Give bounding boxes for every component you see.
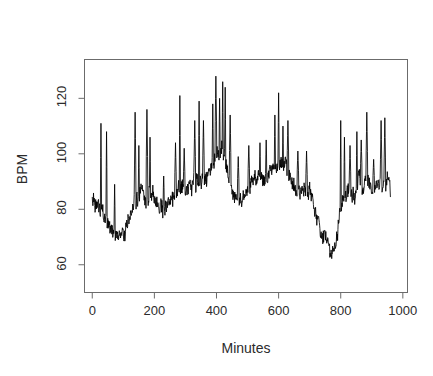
- x-tick-label: 600: [249, 303, 309, 318]
- x-tick-label: 200: [124, 303, 184, 318]
- x-axis-title: Minutes: [84, 340, 408, 356]
- y-tick-label: 120: [53, 77, 68, 117]
- y-axis-title: BPM: [14, 134, 30, 204]
- x-tick-label: 1000: [373, 303, 433, 318]
- y-tick-label: 80: [53, 188, 68, 228]
- x-tick-label: 0: [62, 303, 122, 318]
- y-tick-label: 100: [53, 132, 68, 172]
- figure-panel: (b) Husband BPM Minutes 6080100120 02004…: [0, 0, 433, 376]
- x-tick-label: 400: [186, 303, 246, 318]
- x-tick-label: 800: [311, 303, 371, 318]
- y-tick-label: 60: [53, 243, 68, 283]
